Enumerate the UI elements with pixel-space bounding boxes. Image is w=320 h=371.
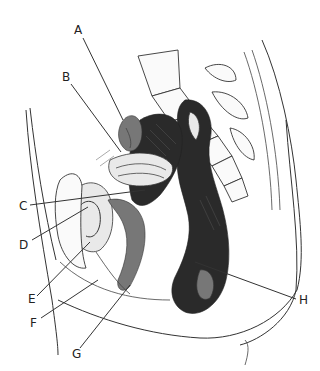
label-a: A: [74, 23, 83, 37]
leader-b: [71, 84, 121, 152]
label-b: B: [62, 70, 70, 84]
label-e: E: [28, 292, 36, 306]
label-d: D: [19, 238, 28, 252]
label-g: G: [72, 347, 81, 361]
pelvis-diagram: A B C D E F G H: [0, 0, 320, 371]
leader-g: [80, 285, 130, 348]
label-f: F: [30, 316, 37, 330]
label-c: C: [19, 199, 27, 213]
label-h: H: [299, 293, 308, 307]
ovary-tube: [119, 116, 142, 151]
